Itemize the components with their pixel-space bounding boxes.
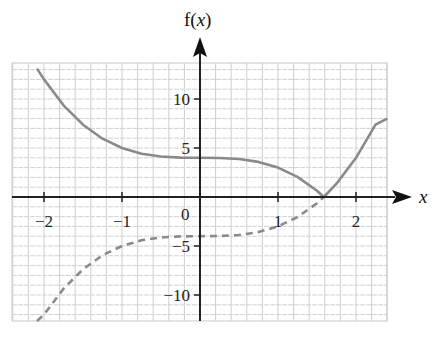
y-tick-label: −10: [163, 286, 190, 305]
x-axis-title: x: [418, 186, 428, 207]
y-tick-label: −5: [172, 237, 190, 256]
x-tick-label: −2: [35, 212, 53, 231]
origin-label: 0: [181, 205, 190, 224]
x-tick-label: 1: [274, 212, 283, 231]
y-tick-label: 10: [173, 90, 190, 109]
y-tick-label: 5: [182, 139, 191, 158]
x-tick-label: −1: [113, 212, 131, 231]
x-tick-label: 2: [352, 212, 361, 231]
y-axis-title: f(x): [184, 9, 211, 31]
function-graph: −2−112105−5−10 f(x) x 0: [0, 0, 438, 338]
